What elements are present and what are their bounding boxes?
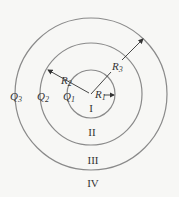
r1-label: R1 bbox=[94, 88, 106, 102]
region-iv-label: IV bbox=[87, 177, 99, 189]
concentric-shells-diagram: R3 R2 R1 Q3 Q2 Q1 I II III IV bbox=[0, 0, 179, 197]
r3-arrow-tail bbox=[122, 39, 143, 60]
r2-label: R2 bbox=[60, 74, 72, 88]
q3-label: Q3 bbox=[10, 90, 22, 104]
region-ii-label: II bbox=[88, 126, 96, 138]
q2-label: Q2 bbox=[37, 90, 49, 104]
region-i-label: I bbox=[89, 102, 93, 114]
region-iii-label: III bbox=[88, 154, 99, 166]
q1-label: Q1 bbox=[63, 90, 75, 104]
r3-label: R3 bbox=[111, 60, 123, 74]
